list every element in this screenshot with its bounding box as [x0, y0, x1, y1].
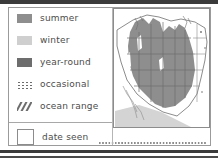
occasional-dots-swatch-icon — [17, 80, 32, 89]
legend-label-ocean-range: ocean range — [40, 101, 98, 112]
legend-items: summer winter year-round occasional ocea… — [9, 8, 112, 122]
legend-item-summer[interactable]: summer — [17, 11, 78, 25]
date-seen-label: date seen — [42, 132, 88, 142]
date-seen-row[interactable]: date seen — [17, 128, 88, 146]
date-seen-checkbox[interactable] — [17, 129, 34, 145]
winter-swatch-icon — [17, 36, 32, 45]
legend-item-year-round[interactable]: year-round — [17, 55, 91, 69]
scan-rule-top — [0, 0, 218, 4]
legend-divider — [9, 122, 112, 123]
legend-item-occasional[interactable]: occasional — [17, 77, 89, 91]
ocean-range-shape — [115, 105, 191, 127]
figure-page: summer winter year-round occasional ocea… — [0, 0, 218, 159]
legend-label-winter: winter — [40, 35, 70, 46]
legend-item-ocean-range[interactable]: ocean range — [17, 99, 98, 113]
legend-label-occasional: occasional — [40, 79, 89, 90]
scan-rule-bottom-thin — [0, 156, 218, 158]
range-map — [113, 8, 210, 128]
summer-swatch-icon — [17, 14, 32, 23]
legend-label-summer: summer — [40, 13, 78, 24]
date-write-in-line[interactable] — [99, 142, 207, 144]
scan-rule-bottom-thick — [0, 150, 218, 153]
ocean-hatch-swatch-icon — [17, 102, 32, 111]
year-round-swatch-icon — [17, 58, 32, 67]
range-map-svg — [113, 8, 210, 128]
legend-item-winter[interactable]: winter — [17, 33, 70, 47]
legend-label-year-round: year-round — [40, 57, 91, 68]
legend-panel: summer winter year-round occasional ocea… — [9, 8, 112, 145]
